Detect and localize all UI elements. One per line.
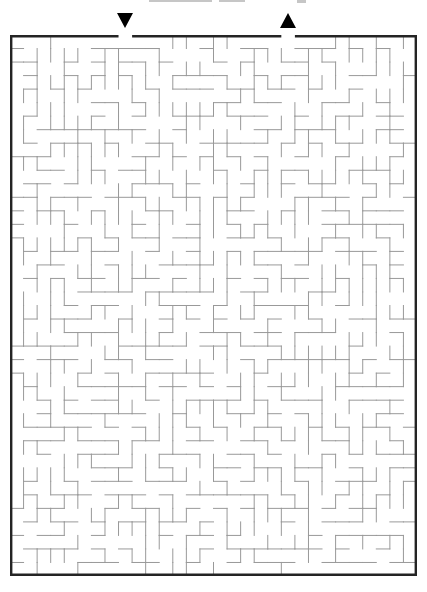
exit-marker-up-triangle-icon [280,13,296,28]
clipped-text-fragment [149,0,212,2]
maze-interior-walls [10,35,417,576]
clipped-text-fragment [219,0,245,2]
clipped-title-remnant [0,0,427,6]
maze-grid [10,35,417,576]
clipped-text-fragment [297,0,306,3]
entrance-marker-down-triangle-icon [117,13,133,28]
maze-puzzle-page [0,0,427,592]
